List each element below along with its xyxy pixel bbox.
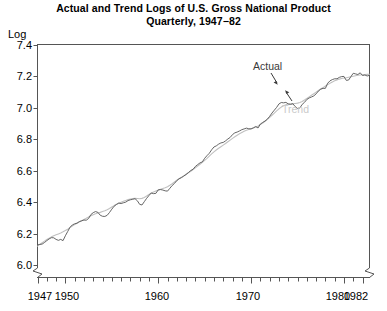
y-tick-label-6.2: 6.2 [6, 229, 32, 240]
axis-break-right-icon [365, 265, 374, 278]
plot-area [0, 0, 387, 311]
axis-break-left-icon [33, 265, 42, 278]
x-axis-ticks [39, 278, 364, 284]
y-tick-label-7.4: 7.4 [6, 40, 32, 51]
arrow-trend-head [285, 90, 289, 94]
y-tick-label-7.2: 7.2 [6, 71, 32, 82]
annotation-trend-label: Trend [282, 104, 309, 115]
y-tick-label-6.8: 6.8 [6, 134, 32, 145]
y-tick-label-7.0: 7.0 [6, 103, 32, 114]
chart-title: Actual and Trend Logs of U.S. Gross Nati… [0, 2, 387, 28]
chart-title-line-1: Actual and Trend Logs of U.S. Gross Nati… [0, 2, 387, 15]
y-axis-ticks [34, 46, 38, 266]
chart-figure: Actual and Trend Logs of U.S. Gross Nati… [0, 0, 387, 311]
x-tick-label-1950: 1950 [51, 291, 83, 302]
annotation-actual-label: Actual [253, 61, 282, 72]
x-tick-label-1970: 1970 [232, 291, 264, 302]
y-tick-label-6.0: 6.0 [6, 260, 32, 271]
x-tick-label-1960: 1960 [141, 291, 173, 302]
chart-title-line-2: Quarterly, 1947−82 [0, 15, 387, 28]
x-tick-label-1982: 1982 [340, 291, 372, 302]
y-tick-label-6.6: 6.6 [6, 166, 32, 177]
annotation-arrows [271, 73, 292, 101]
series-line-actual [38, 73, 370, 245]
y-tick-label-6.4: 6.4 [6, 197, 32, 208]
